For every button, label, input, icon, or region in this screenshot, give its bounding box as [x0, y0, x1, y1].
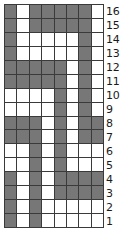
- pattern-cell[interactable]: [79, 200, 90, 213]
- pattern-cell[interactable]: [79, 130, 90, 143]
- pattern-cell[interactable]: [5, 117, 16, 130]
- pattern-cell[interactable]: [42, 33, 53, 46]
- pattern-cell[interactable]: [5, 214, 16, 227]
- pattern-cell[interactable]: [79, 172, 90, 185]
- pattern-cell[interactable]: [30, 214, 41, 227]
- pattern-cell[interactable]: [55, 214, 66, 227]
- pattern-cell[interactable]: [55, 117, 66, 130]
- pattern-cell[interactable]: [5, 158, 16, 171]
- pattern-cell[interactable]: [17, 61, 28, 74]
- pattern-cell[interactable]: [17, 75, 28, 88]
- pattern-cell[interactable]: [79, 117, 90, 130]
- pattern-cell[interactable]: [5, 103, 16, 116]
- pattern-cell[interactable]: [30, 33, 41, 46]
- pattern-cell[interactable]: [67, 186, 78, 199]
- pattern-cell[interactable]: [5, 33, 16, 46]
- pattern-cell[interactable]: [67, 158, 78, 171]
- pattern-cell[interactable]: [55, 103, 66, 116]
- pattern-cell[interactable]: [17, 89, 28, 102]
- pattern-cell[interactable]: [79, 158, 90, 171]
- pattern-cell[interactable]: [42, 75, 53, 88]
- pattern-cell[interactable]: [92, 19, 103, 32]
- pattern-cell[interactable]: [92, 214, 103, 227]
- pattern-cell[interactable]: [55, 61, 66, 74]
- pattern-cell[interactable]: [30, 117, 41, 130]
- pattern-cell[interactable]: [42, 172, 53, 185]
- pattern-cell[interactable]: [30, 89, 41, 102]
- pattern-cell[interactable]: [55, 75, 66, 88]
- pattern-cell[interactable]: [30, 144, 41, 157]
- pattern-cell[interactable]: [17, 158, 28, 171]
- pattern-cell[interactable]: [79, 19, 90, 32]
- pattern-cell[interactable]: [17, 130, 28, 143]
- pattern-cell[interactable]: [92, 5, 103, 18]
- pattern-cell[interactable]: [55, 19, 66, 32]
- pattern-cell[interactable]: [55, 200, 66, 213]
- pattern-cell[interactable]: [17, 200, 28, 213]
- pattern-cell[interactable]: [67, 47, 78, 60]
- pattern-cell[interactable]: [55, 158, 66, 171]
- pattern-cell[interactable]: [67, 200, 78, 213]
- pattern-cell[interactable]: [5, 61, 16, 74]
- pattern-cell[interactable]: [79, 89, 90, 102]
- pattern-cell[interactable]: [67, 75, 78, 88]
- pattern-cell[interactable]: [67, 172, 78, 185]
- pattern-cell[interactable]: [92, 89, 103, 102]
- pattern-cell[interactable]: [79, 47, 90, 60]
- pattern-cell[interactable]: [42, 117, 53, 130]
- pattern-cell[interactable]: [92, 61, 103, 74]
- pattern-cell[interactable]: [17, 19, 28, 32]
- pattern-cell[interactable]: [92, 172, 103, 185]
- pattern-cell[interactable]: [92, 158, 103, 171]
- pattern-cell[interactable]: [17, 117, 28, 130]
- pattern-cell[interactable]: [5, 19, 16, 32]
- pattern-cell[interactable]: [55, 47, 66, 60]
- pattern-cell[interactable]: [67, 33, 78, 46]
- pattern-cell[interactable]: [42, 61, 53, 74]
- pattern-cell[interactable]: [17, 214, 28, 227]
- pattern-cell[interactable]: [67, 144, 78, 157]
- pattern-cell[interactable]: [79, 144, 90, 157]
- pattern-cell[interactable]: [92, 33, 103, 46]
- pattern-cell[interactable]: [42, 103, 53, 116]
- pattern-cell[interactable]: [17, 103, 28, 116]
- pattern-cell[interactable]: [5, 200, 16, 213]
- pattern-cell[interactable]: [5, 47, 16, 60]
- pattern-cell[interactable]: [92, 200, 103, 213]
- pattern-cell[interactable]: [67, 214, 78, 227]
- pattern-cell[interactable]: [92, 47, 103, 60]
- pattern-cell[interactable]: [5, 144, 16, 157]
- pattern-cell[interactable]: [30, 19, 41, 32]
- pattern-cell[interactable]: [5, 75, 16, 88]
- pattern-cell[interactable]: [17, 186, 28, 199]
- pattern-cell[interactable]: [55, 186, 66, 199]
- pattern-cell[interactable]: [67, 5, 78, 18]
- pattern-cell[interactable]: [92, 103, 103, 116]
- pattern-cell[interactable]: [42, 186, 53, 199]
- pattern-cell[interactable]: [55, 89, 66, 102]
- pattern-cell[interactable]: [79, 186, 90, 199]
- pattern-cell[interactable]: [67, 61, 78, 74]
- pattern-cell[interactable]: [42, 19, 53, 32]
- pattern-cell[interactable]: [30, 172, 41, 185]
- pattern-cell[interactable]: [79, 103, 90, 116]
- pattern-cell[interactable]: [5, 5, 16, 18]
- pattern-cell[interactable]: [5, 89, 16, 102]
- pattern-cell[interactable]: [67, 130, 78, 143]
- pattern-cell[interactable]: [79, 61, 90, 74]
- pattern-cell[interactable]: [42, 89, 53, 102]
- pattern-cell[interactable]: [30, 5, 41, 18]
- pattern-cell[interactable]: [30, 61, 41, 74]
- pattern-cell[interactable]: [30, 158, 41, 171]
- pattern-cell[interactable]: [67, 117, 78, 130]
- pattern-cell[interactable]: [42, 158, 53, 171]
- pattern-cell[interactable]: [79, 75, 90, 88]
- pattern-cell[interactable]: [30, 130, 41, 143]
- pattern-cell[interactable]: [30, 200, 41, 213]
- pattern-cell[interactable]: [67, 19, 78, 32]
- pattern-cell[interactable]: [30, 75, 41, 88]
- pattern-cell[interactable]: [55, 5, 66, 18]
- pattern-cell[interactable]: [42, 214, 53, 227]
- pattern-cell[interactable]: [42, 200, 53, 213]
- pattern-cell[interactable]: [79, 33, 90, 46]
